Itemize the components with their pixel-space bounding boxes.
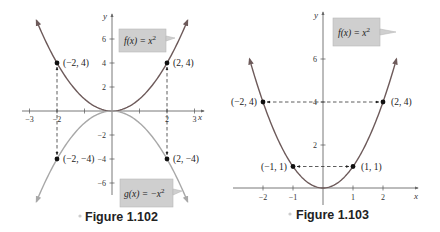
y-tick-label: 4: [102, 59, 106, 68]
caption-figure-1-103: Figure 1.103: [296, 208, 369, 222]
figure-1-102: xy−3−223642−2−4−6 (−2, 4)(2, 4)(−2, −4)(…: [22, 11, 204, 224]
label-box-f2-pointer: [380, 29, 396, 35]
y-tick-label: −4: [97, 155, 106, 164]
point-label: (1, 1): [361, 162, 382, 173]
data-point: [261, 100, 266, 105]
x-tick-label: −2: [259, 193, 268, 202]
label-f-text: f(x) = x2: [124, 34, 157, 47]
label-f2-text: f(x) = x2: [338, 26, 371, 39]
point-label: (−2, 4): [63, 58, 89, 69]
y-tick-label: 4: [313, 98, 317, 107]
caption-figure-1-102: Figure 1.102: [85, 210, 158, 224]
y-tick-label: 2: [102, 83, 106, 92]
data-point: [55, 61, 60, 66]
data-point: [351, 164, 356, 169]
label-box-g-pointer: [173, 189, 182, 195]
x-tick-label: −1: [289, 193, 298, 202]
x-tick-label: 1: [351, 193, 355, 202]
point-label: (2, 4): [391, 97, 412, 108]
label-box-f: f(x) = x2: [119, 29, 175, 52]
points: (−2, 4)(2, 4)(−1, 1)(1, 1): [231, 97, 412, 173]
y-tick-label: −2: [97, 131, 106, 140]
data-point: [165, 157, 170, 162]
points: (−2, 4)(2, 4)(−2, −4)(2, −4): [55, 58, 199, 165]
y-tick-label: 2: [313, 141, 317, 150]
data-point: [381, 100, 386, 105]
label-box-g: g(x) = −x2: [120, 179, 182, 207]
y-axis-label: y: [313, 10, 318, 20]
axes: xy−2−112642: [233, 10, 418, 205]
figures-canvas: xy−3−223642−2−4−6 (−2, 4)(2, 4)(−2, −4)(…: [0, 0, 440, 232]
data-point: [165, 61, 170, 66]
x-tick-label: 3: [193, 115, 197, 124]
y-axis-label: y: [102, 11, 107, 21]
caption-bullet: [78, 214, 81, 217]
data-point: [55, 157, 60, 162]
axes: xy−3−223642−2−4−6: [22, 11, 204, 195]
caption-bullet: [288, 212, 291, 215]
point-label: (2, 4): [173, 58, 194, 69]
figure-1-103: xy−2−112642 (−2, 4)(2, 4)(−1, 1)(1, 1) f…: [231, 10, 418, 222]
x-axis-label: x: [197, 112, 202, 122]
x-tick-label: 2: [381, 193, 385, 202]
label-box-f2: f(x) = x2: [333, 18, 396, 46]
x-axis-label: x: [413, 191, 418, 201]
label-g-text: g(x) = −x2: [124, 187, 165, 200]
point-label: (−2, 4): [231, 97, 257, 108]
point-label: (−1, 1): [261, 162, 287, 173]
x-tick-label: −3: [25, 115, 34, 124]
label-box-f-pointer: [166, 36, 175, 41]
data-point: [291, 164, 296, 169]
y-tick-label: 6: [313, 55, 317, 64]
point-label: (−2, −4): [63, 154, 94, 165]
y-tick-label: −6: [97, 179, 106, 188]
y-tick-label: 6: [102, 35, 106, 44]
point-label: (2, −4): [173, 154, 199, 165]
